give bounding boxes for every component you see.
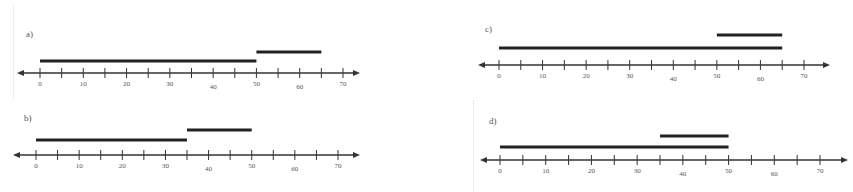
arrow-left-icon <box>13 152 20 158</box>
tick-label: 20 <box>588 167 596 175</box>
number-line-panel-d: d)010203040506070 <box>480 116 848 178</box>
panel-label: a) <box>26 29 33 39</box>
tick-label: 10 <box>80 80 88 88</box>
tick-label: 40 <box>205 165 213 173</box>
arrow-right-icon <box>823 62 830 68</box>
tick-label: 0 <box>34 162 38 170</box>
tick-label: 60 <box>291 165 299 173</box>
tick-label: 40 <box>670 75 678 83</box>
panel-label: d) <box>489 116 497 126</box>
number-line-panel-c: c)010203040506070 <box>478 24 830 83</box>
tick-label: 0 <box>498 167 502 175</box>
arrow-left-icon <box>17 70 24 76</box>
panel-label: c) <box>485 24 492 34</box>
tick-label: 60 <box>771 170 779 178</box>
number-line-panel-a: a)010203040506070 <box>17 29 360 91</box>
arrow-left-icon <box>478 62 485 68</box>
tick-label: 70 <box>335 162 343 170</box>
tick-label: 30 <box>634 167 642 175</box>
number-line-panel-b: b)010203040506070 <box>13 113 360 173</box>
tick-label: 60 <box>757 75 765 83</box>
arrow-right-icon <box>353 70 360 76</box>
tick-label: 30 <box>166 80 174 88</box>
tick-label: 60 <box>296 83 304 91</box>
tick-label: 30 <box>162 162 170 170</box>
arrow-left-icon <box>480 157 487 163</box>
tick-label: 0 <box>497 72 501 80</box>
number-line-diagram: a)010203040506070b)010203040506070c)0102… <box>0 0 853 192</box>
tick-label: 20 <box>583 72 591 80</box>
tick-label: 50 <box>725 167 733 175</box>
tick-label: 30 <box>626 72 634 80</box>
tick-label: 70 <box>801 72 809 80</box>
arrow-right-icon <box>841 157 848 163</box>
panel-label: b) <box>24 113 32 123</box>
arrow-right-icon <box>353 152 360 158</box>
tick-label: 20 <box>123 80 131 88</box>
tick-label: 40 <box>679 170 687 178</box>
tick-label: 20 <box>119 162 127 170</box>
tick-label: 10 <box>539 72 547 80</box>
tick-label: 0 <box>38 80 42 88</box>
tick-label: 40 <box>210 83 218 91</box>
tick-label: 50 <box>713 72 721 80</box>
tick-label: 50 <box>248 162 256 170</box>
tick-label: 10 <box>542 167 550 175</box>
tick-label: 50 <box>253 80 261 88</box>
tick-label: 70 <box>340 80 348 88</box>
tick-label: 10 <box>76 162 84 170</box>
tick-label: 70 <box>817 167 825 175</box>
